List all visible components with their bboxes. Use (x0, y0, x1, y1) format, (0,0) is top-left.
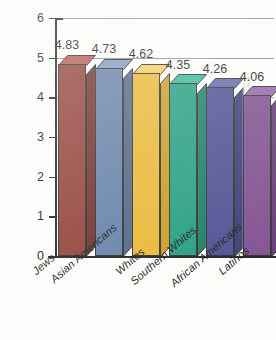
value-label-jews: 4.83 (47, 38, 87, 52)
y-tick-2 (49, 177, 56, 178)
bar-jews (58, 64, 86, 256)
y-axis-label-5: 5 (4, 51, 44, 65)
bar-latinos (243, 95, 271, 256)
bar-chart: 6 5 4 3 2 1 0 4.83 4.73 4.62 4.35 4.26 4… (0, 0, 276, 340)
bar-front-face (132, 73, 160, 256)
bar-front-face (58, 64, 86, 256)
y-axis-label-2: 2 (4, 170, 44, 184)
bar-whites (132, 73, 160, 256)
value-label-whites: 4.62 (121, 47, 161, 61)
y-tick-4 (49, 97, 56, 98)
y-axis-label-4: 4 (4, 90, 44, 104)
y-axis-label-1: 1 (4, 209, 44, 223)
value-label-latinos: 4.06 (232, 70, 272, 84)
value-label-southern-whites: 4.35 (158, 58, 198, 72)
gridline-6 (56, 18, 274, 19)
value-label-asian-americans: 4.73 (84, 42, 124, 56)
y-axis-top-cap (55, 18, 63, 20)
y-tick-1 (49, 216, 56, 217)
y-axis-label-6: 6 (4, 11, 44, 25)
bar-front-face (243, 95, 271, 256)
y-tick-3 (49, 137, 56, 138)
bar-side-face (271, 95, 276, 256)
y-tick-6 (49, 18, 56, 19)
y-axis-label-3: 3 (4, 130, 44, 144)
value-label-african-americans: 4.26 (195, 62, 235, 76)
y-tick-5 (49, 58, 56, 59)
